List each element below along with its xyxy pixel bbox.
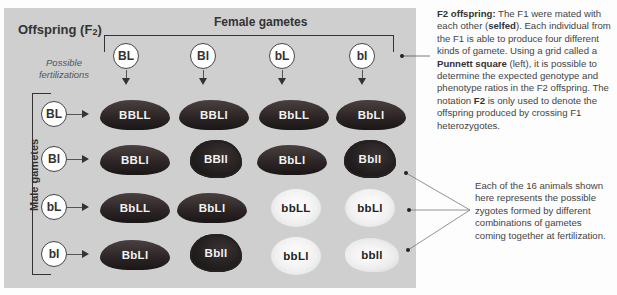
description-lead: F2 offspring: (437, 8, 496, 19)
leader-dot (404, 171, 408, 175)
selfed-term: selfed (488, 20, 516, 31)
zygotes-description: Each of the 16 animals shown here repres… (475, 180, 615, 242)
f2-offspring-description: F2 offspring: The F1 were mated with eac… (437, 8, 615, 132)
punnett-square-term: Punnett square (437, 58, 507, 69)
leader-dot (407, 208, 411, 212)
leader-dot (400, 54, 404, 58)
f2-term: F2 (474, 95, 485, 106)
leader-dot (406, 248, 410, 252)
